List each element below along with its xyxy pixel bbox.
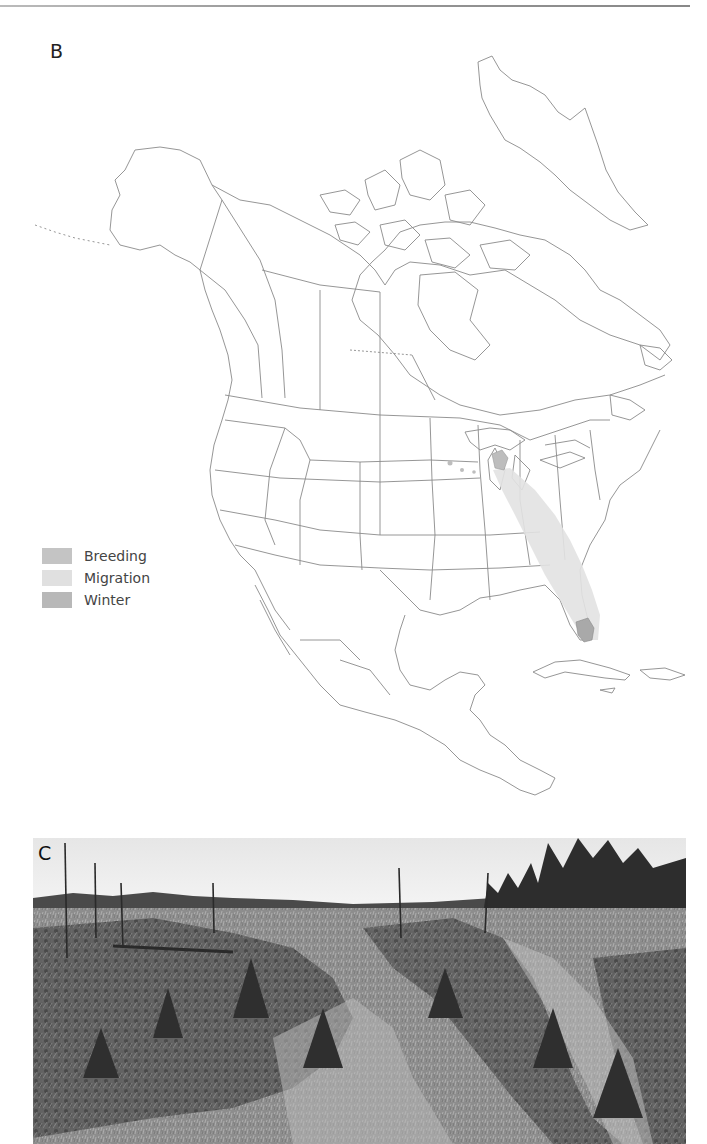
migration-range [493,468,600,640]
top-rule [0,5,690,7]
mexico-outline [255,585,555,795]
legend-label-migration: Migration [84,570,150,586]
greenland-outline [478,56,648,230]
north-america-map [0,30,707,820]
legend-swatch-winter [42,592,72,608]
hispaniola [640,668,685,680]
legend-swatch-breeding [42,548,72,564]
legend-label-winter: Winter [84,592,130,608]
legend-item-breeding: Breeding [42,545,150,567]
legend-item-winter: Winter [42,589,150,611]
cuba [533,660,630,680]
panel-label-c: C [38,842,51,864]
breeding-range [492,450,508,470]
canada-outline [212,185,670,415]
pacific-coast [200,270,290,630]
hudson-bay [418,272,490,360]
great-lakes [465,428,525,450]
jack-pine-habitat-image [33,838,686,1144]
habitat-photo [33,838,686,1144]
legend-swatch-migration [42,570,72,586]
legend-item-migration: Migration [42,567,150,589]
map-legend: Breeding Migration Winter [42,545,150,611]
legend-label-breeding: Breeding [84,548,147,564]
aleutians [35,225,110,245]
alaska-outline [110,147,222,270]
range-map [0,30,707,820]
